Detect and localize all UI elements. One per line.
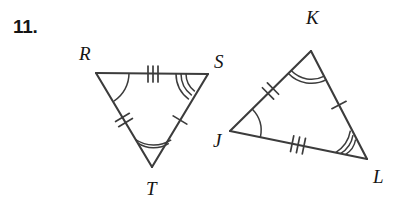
- angle-mark-j: [252, 109, 261, 137]
- tick-marks-kl: [332, 101, 346, 108]
- vertex-label-s: S: [214, 51, 224, 72]
- vertex-label-k: K: [305, 7, 320, 28]
- angle-mark-k: [288, 71, 326, 84]
- angle-mark-l: [336, 131, 356, 155]
- vertex-label-r: R: [78, 43, 91, 64]
- vertex-label-j: J: [213, 130, 223, 151]
- vertex-label-l: L: [372, 166, 384, 187]
- worksheet-page: 11.: [0, 0, 408, 213]
- vertex-label-t: T: [146, 178, 158, 199]
- side-rt: [96, 73, 152, 167]
- angle-mark-r: [114, 73, 129, 101]
- angle-mark-s: [176, 74, 195, 100]
- triangle-rst: R S T: [78, 43, 224, 199]
- triangle-jkl: K J L: [213, 7, 384, 187]
- geometry-figure: R S T: [0, 0, 408, 213]
- side-rs: [96, 73, 208, 74]
- side-jk: [230, 51, 311, 131]
- tick-marks-st: [173, 116, 187, 124]
